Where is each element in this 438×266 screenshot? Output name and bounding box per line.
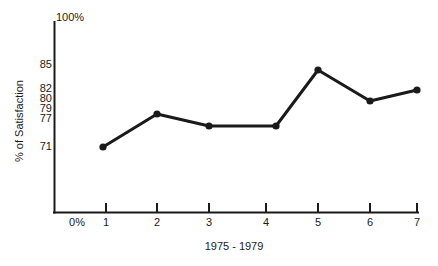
- data-point-7: [413, 86, 420, 93]
- x-axis-ticks: [106, 203, 417, 212]
- x-axis-zero-label: 0%: [64, 217, 90, 228]
- data-point-1: [99, 143, 106, 150]
- y-axis-title: % of Satisfaction: [14, 80, 25, 162]
- x-tick-label-3: 3: [199, 217, 219, 228]
- x-tick-label-1: 1: [96, 217, 116, 228]
- y-axis-top-label: 100%: [56, 12, 84, 23]
- x-tick-label-5: 5: [308, 217, 328, 228]
- line-chart-figure: 100% 85 82 80 79 77 71 % of Satisfaction…: [0, 0, 438, 266]
- x-tick-label-2: 2: [147, 217, 167, 228]
- data-point-3: [205, 122, 212, 129]
- data-point-2: [153, 110, 160, 117]
- data-point-markers: [99, 66, 420, 150]
- y-tick-label-71: 71: [30, 141, 52, 152]
- data-point-4: [272, 122, 279, 129]
- data-line-series: [103, 70, 417, 147]
- x-tick-label-7: 7: [407, 217, 427, 228]
- data-point-6: [366, 97, 373, 104]
- x-tick-label-4: 4: [256, 217, 276, 228]
- data-point-5: [314, 66, 321, 73]
- x-tick-label-6: 6: [360, 217, 380, 228]
- y-tick-label-85: 85: [30, 59, 52, 70]
- y-tick-label-77: 77: [30, 113, 52, 124]
- x-axis-title: 1975 - 1979: [179, 241, 289, 252]
